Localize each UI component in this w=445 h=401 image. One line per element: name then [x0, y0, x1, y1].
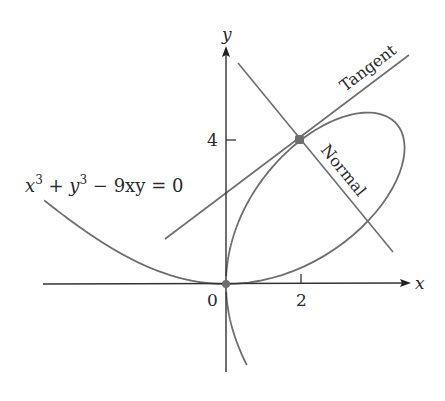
- y-tick-label: 4: [207, 130, 218, 150]
- folium-curve-loop: [226, 113, 405, 284]
- tangent-label: Tangent: [336, 40, 400, 95]
- folium-diagram: y x 0 2 4 Tangent Normal x3 + y3 − 9xy =…: [0, 0, 445, 401]
- x-tick-label: 2: [296, 290, 307, 310]
- normal-line: [238, 63, 393, 252]
- y-axis-label: y: [221, 24, 232, 44]
- equation-label: x3 + y3 − 9xy = 0: [25, 173, 183, 196]
- tangent-line: [165, 55, 409, 239]
- x-axis-label: x: [415, 273, 425, 293]
- origin-label: 0: [207, 290, 218, 310]
- origin-point: [222, 280, 230, 288]
- tangency-point: [295, 135, 304, 144]
- folium-curve-branch-lower: [226, 292, 247, 365]
